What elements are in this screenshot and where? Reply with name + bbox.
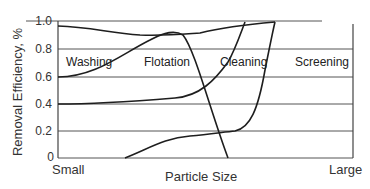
x-tick-large: Large	[329, 162, 362, 177]
y-tick-0-8: 0.8	[35, 42, 52, 56]
gridlines	[26, 21, 353, 158]
y-tick-0-6: 0.6	[35, 70, 52, 84]
curve-b	[58, 32, 228, 158]
y-axis-label: Removal Efficiency, %	[10, 28, 25, 157]
y-tick-0-4: 0.4	[35, 97, 52, 111]
curves	[58, 22, 275, 158]
region-label-cleaning: Cleaning	[220, 55, 267, 69]
y-tick-1-0: 1.0	[35, 14, 52, 28]
region-label-screening: Screening	[295, 55, 349, 69]
region-label-washing: Washing	[66, 55, 112, 69]
region-label-flotation: Flotation	[144, 55, 190, 69]
y-tick-0-2: 0.2	[35, 124, 52, 138]
x-axis-label: Particle Size	[165, 169, 237, 184]
x-tick-small: Small	[52, 162, 85, 177]
chart: 1.0 0.8 0.6 0.4 0.2 0 Washing Flotation …	[0, 0, 370, 189]
